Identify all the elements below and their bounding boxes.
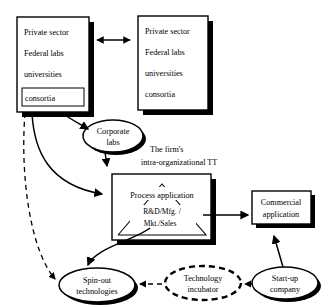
start-up-company-node[interactable]: Start-up company	[252, 267, 321, 302]
left-box-line-3: universities	[24, 70, 62, 79]
firms-tt-caption: The firm's intra-organizational TT	[141, 145, 217, 167]
start-up-line-2: company	[270, 285, 301, 294]
corporate-labs-line-1: Corporate	[97, 127, 130, 136]
right-box-line-2: Federal labs	[145, 48, 185, 57]
technology-incubator-node[interactable]: Technology incubator	[165, 266, 241, 300]
arrow-startup-to-commercial	[274, 236, 283, 267]
spin-out-technologies-node[interactable]: Spin-out technologies	[59, 268, 138, 305]
commercial-box-frame	[252, 191, 311, 224]
spin-out-line-2: technologies	[76, 287, 117, 296]
process-application-box[interactable]: Process application R&D/Mfg. / Mkt./Sale…	[112, 174, 216, 245]
start-up-line-1: Start-up	[272, 274, 298, 283]
diagram-root: Private sector Federal labs universities…	[0, 0, 326, 306]
external-sources-left-box[interactable]: Private sector Federal labs universities…	[17, 17, 94, 117]
right-box-line-3: universities	[145, 69, 183, 78]
commercial-application-line-1: Commercial	[261, 198, 302, 207]
technology-incubator-line-1: Technology	[184, 274, 223, 283]
process-inner-line-2: Mkt./Sales	[144, 219, 177, 228]
left-box-line-2: Federal labs	[24, 49, 64, 58]
commercial-application-box[interactable]: Commercial application	[252, 191, 315, 228]
right-box-line-4: consortia	[145, 90, 175, 99]
left-box-line-1: Private sector	[24, 28, 69, 37]
right-box-line-1: Private sector	[145, 27, 190, 36]
process-application-label: Process application	[130, 191, 193, 200]
corporate-labs-line-2: labs	[106, 138, 119, 147]
diagram-canvas: Private sector Federal labs universities…	[0, 0, 326, 306]
corporate-labs-ellipse	[83, 120, 143, 152]
firms-tt-caption-line-1: The firm's	[150, 145, 184, 154]
start-up-ellipse	[252, 267, 318, 299]
process-inner-line-1: R&D/Mfg. /	[143, 207, 181, 216]
technology-incubator-line-2: incubator	[188, 285, 219, 294]
firms-tt-caption-line-2: intra-organizational TT	[141, 158, 217, 167]
spin-out-line-1: Spin-out	[83, 276, 112, 285]
commercial-application-line-2: application	[263, 210, 299, 219]
spin-out-ellipse	[59, 268, 135, 302]
corporate-labs-node[interactable]: Corporate labs	[83, 120, 146, 155]
dashed-arrow-consortia-to-spinout	[24, 113, 55, 279]
technology-incubator-ellipse	[165, 266, 241, 300]
external-sources-right-box[interactable]: Private sector Federal labs universities…	[138, 16, 213, 115]
left-box-line-4: consortia	[25, 94, 55, 103]
